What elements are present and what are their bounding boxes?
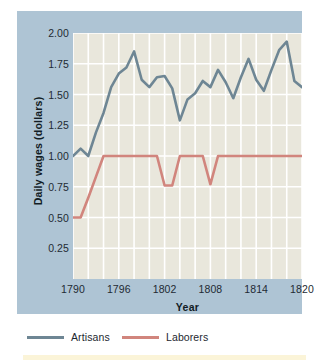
legend-label: Artisans [71, 331, 110, 343]
y-tick-label: 2.00 [35, 28, 69, 38]
series-line-artisans [73, 42, 302, 156]
x-tick-label: 1790 [51, 283, 95, 295]
plot-svg [73, 33, 302, 279]
x-tick-label: 1820 [280, 283, 319, 295]
chart-figure: 0.250.500.751.001.251.501.752.00 1790179… [0, 0, 319, 362]
bottom-accent-band [23, 355, 306, 360]
legend-item-artisans[interactable]: Artisans [27, 331, 110, 343]
plot-area [73, 33, 302, 279]
y-tick-label: 0.25 [35, 243, 69, 253]
x-tick-label: 1802 [143, 283, 187, 295]
x-tick-label: 1808 [188, 283, 232, 295]
chart-legend: ArtisansLaborers [17, 331, 302, 347]
x-tick-label: 1796 [97, 283, 141, 295]
chart-panel: 0.250.500.751.001.251.501.752.00 1790179… [17, 11, 302, 314]
x-axis-tick-labels: 179017961802180818141820 [73, 283, 302, 299]
legend-swatch-icon [122, 336, 159, 339]
legend-label: Laborers [166, 331, 208, 343]
y-axis-title: Daily wages (dollars) [32, 81, 44, 221]
y-tick-label: 1.75 [35, 59, 69, 69]
legend-item-laborers[interactable]: Laborers [122, 331, 208, 343]
x-axis-title: Year [73, 301, 302, 313]
x-tick-label: 1814 [234, 283, 278, 295]
legend-swatch-icon [27, 336, 64, 339]
